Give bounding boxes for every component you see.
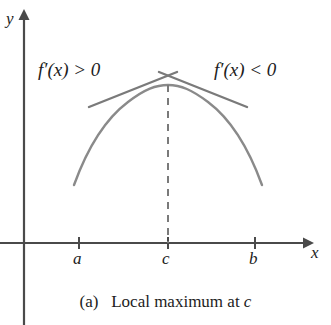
y-axis-label: y — [6, 10, 14, 27]
caption-text: Local maximum at — [111, 292, 239, 311]
tick-label-a: a — [73, 250, 82, 267]
derivative-negative-label: f′(x) < 0 — [214, 60, 276, 79]
caption-spacer — [103, 292, 107, 311]
figure-caption: (a) Local maximum at c — [0, 292, 331, 312]
local-maximum-figure: f′(x) > 0 f′(x) < 0 y x a c b (a) Local … — [0, 0, 331, 325]
x-axis-label: x — [311, 244, 319, 261]
tick-label-b: b — [249, 250, 258, 267]
tangent-line-left — [89, 72, 177, 107]
plot-canvas — [0, 0, 331, 325]
derivative-positive-label: f′(x) > 0 — [38, 60, 100, 79]
tick-label-c: c — [162, 250, 170, 267]
caption-prefix: (a) — [80, 292, 99, 311]
y-axis-arrowhead — [19, 9, 30, 20]
caption-variable: c — [244, 292, 252, 311]
